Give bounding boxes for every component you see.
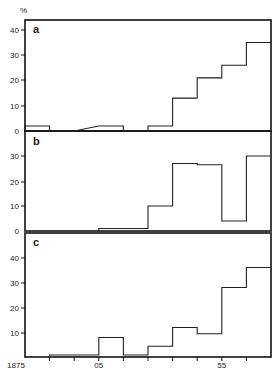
a-tick-10: 10: [10, 102, 19, 111]
a-tick-30: 30: [10, 51, 19, 60]
panel-b-label: b: [33, 135, 40, 147]
a-tick-20: 20: [10, 76, 19, 85]
b-tick-20: 20: [10, 178, 19, 187]
b-tick-30: 30: [10, 152, 19, 161]
panel-c-label: c: [33, 236, 39, 248]
x-tick-05: 05: [94, 361, 103, 370]
x-tick-55: 55: [217, 361, 226, 370]
c-tick-10: 10: [10, 329, 19, 338]
c-tick-40: 40: [10, 254, 19, 263]
b-tick-10: 10: [10, 202, 19, 211]
c-tick-20: 20: [10, 304, 19, 313]
histogram-figure: % a b c 40 30 20 10 0 30 20 10 0 40 30 2…: [0, 0, 279, 374]
c-tick-30: 30: [10, 279, 19, 288]
panel-a-label: a: [33, 23, 40, 35]
panel-a-histogram: [25, 42, 271, 131]
panel-c-frame: [25, 233, 271, 357]
y-unit-label: %: [20, 6, 27, 15]
panel-b-histogram: [99, 156, 271, 231]
x-tick-1875: 1875: [7, 361, 25, 370]
a-tick-40: 40: [10, 26, 19, 35]
panel-c-histogram: [50, 268, 271, 358]
a-tick-0: 0: [15, 127, 20, 136]
panel-a-frame: [25, 20, 271, 131]
b-tick-0: 0: [15, 227, 20, 236]
